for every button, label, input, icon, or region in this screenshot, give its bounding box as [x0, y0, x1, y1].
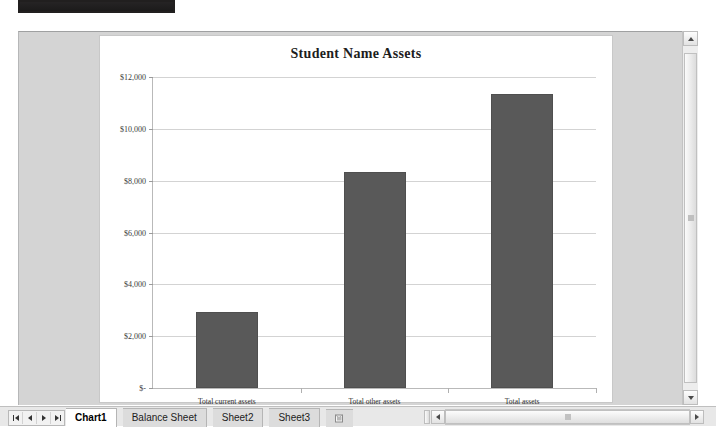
scroll-right-icon[interactable] [690, 410, 704, 424]
new-sheet-icon[interactable] [326, 409, 353, 427]
sheet-tab-sheet3[interactable]: Sheet3 [269, 408, 320, 427]
y-axis-tick [149, 129, 153, 130]
y-axis-tick [149, 336, 153, 337]
scroll-down-icon[interactable] [683, 390, 698, 405]
first-sheet-icon[interactable] [9, 412, 23, 424]
window-title-strip-inner [20, 2, 173, 11]
chart-plot-area: $12,000$10,000$8,000$6,000$4,000$2,000$-… [152, 77, 596, 389]
vertical-scrollbar[interactable] [682, 31, 698, 405]
previous-sheet-glyph [28, 415, 32, 421]
sheet-tab-bar: Chart1Balance SheetSheet2Sheet3 [0, 406, 716, 426]
x-axis-tick [301, 388, 302, 393]
x-axis-label: Total assets [505, 397, 540, 406]
horizontal-scrollbar-thumb[interactable] [445, 410, 690, 424]
gridline [153, 77, 596, 78]
last-sheet-glyph [55, 415, 61, 421]
sheet-navigation-buttons [8, 410, 65, 426]
horizontal-scrollbar[interactable] [424, 409, 704, 424]
scrollbar-grip [565, 414, 571, 420]
chart-sheet[interactable]: Student Name Assets $12,000$10,000$8,000… [99, 35, 613, 403]
chart-bar[interactable] [491, 94, 553, 388]
scroll-up-icon[interactable] [683, 31, 698, 46]
arrow-up-glyph [688, 37, 694, 41]
x-axis-label: Total other assets [349, 397, 401, 406]
y-axis-tick [149, 181, 153, 182]
chart-title: Student Name Assets [100, 46, 612, 62]
split-handle[interactable] [424, 410, 430, 424]
arrow-left-glyph [436, 414, 440, 420]
y-axis-tick [149, 77, 153, 78]
chart-workspace: Student Name Assets $12,000$10,000$8,000… [18, 31, 698, 405]
sheet-tab-sheet2[interactable]: Sheet2 [213, 408, 264, 427]
arrow-right-glyph [695, 414, 699, 420]
y-axis-label: $8,000 [124, 176, 146, 185]
arrow-down-glyph [688, 396, 694, 400]
vertical-scrollbar-thumb[interactable] [684, 53, 697, 383]
chart-bar[interactable] [196, 312, 258, 388]
sheet-tab-chart1[interactable]: Chart1 [66, 408, 117, 427]
x-axis-tick [448, 388, 449, 393]
next-sheet-glyph [42, 415, 46, 421]
scroll-left-icon[interactable] [431, 410, 445, 424]
y-axis-label: $- [139, 384, 146, 393]
x-axis-label: Total current assets [198, 397, 256, 406]
first-sheet-glyph [13, 415, 19, 421]
sheet-tab-balance-sheet[interactable]: Balance Sheet [123, 408, 207, 427]
y-axis-tick [149, 388, 153, 389]
y-axis-tick [149, 233, 153, 234]
previous-sheet-icon[interactable] [23, 412, 37, 424]
x-axis-tick [596, 388, 597, 393]
horizontal-scrollbar-track[interactable] [445, 409, 690, 425]
sheet-tabs: Chart1Balance SheetSheet2Sheet3 [66, 408, 353, 427]
scrollbar-grip [688, 215, 694, 221]
y-axis-label: $10,000 [120, 124, 146, 133]
window-title-strip [18, 0, 175, 13]
next-sheet-icon[interactable] [37, 412, 51, 424]
last-sheet-icon[interactable] [51, 412, 64, 424]
chart-bar[interactable] [344, 172, 406, 388]
y-axis-tick [149, 284, 153, 285]
y-axis-label: $6,000 [124, 228, 146, 237]
y-axis-label: $4,000 [124, 280, 146, 289]
y-axis-label: $12,000 [120, 73, 146, 82]
y-axis-label: $2,000 [124, 332, 146, 341]
